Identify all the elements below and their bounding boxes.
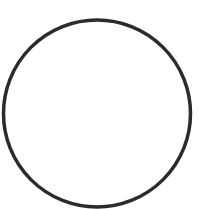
circle-outline [4,20,191,207]
diagram-svg [0,0,209,209]
drawing-canvas [0,0,209,209]
